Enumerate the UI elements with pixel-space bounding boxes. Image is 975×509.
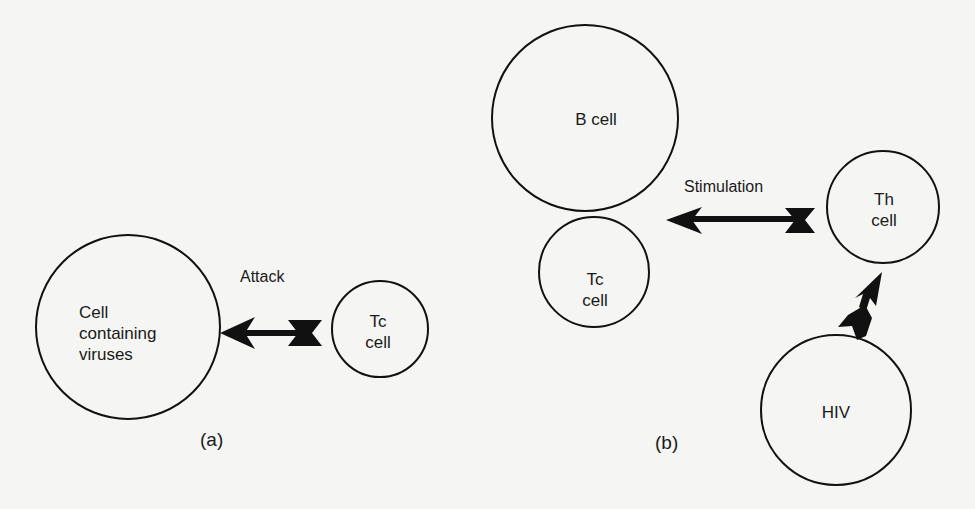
stimulation-label: Stimulation — [684, 178, 763, 195]
panel-b: B cell Tc cell Th cell HIV Stimulation (… — [492, 25, 939, 485]
tc-cell-b-label-line2: cell — [582, 291, 608, 310]
immune-diagram: Cell containing viruses Tc cell Attack (… — [0, 0, 975, 509]
infected-cell-label-line2: containing — [79, 324, 157, 343]
panel-b-caption: (b) — [655, 432, 678, 453]
attack-arrow-icon — [220, 317, 322, 349]
tc-cell-a-label-line2: cell — [365, 333, 391, 352]
tc-cell-b-label-line1: Tc — [587, 270, 605, 289]
hiv-label: HIV — [822, 403, 851, 422]
attack-label: Attack — [240, 268, 285, 285]
stimulation-arrow-icon — [666, 207, 815, 234]
th-cell-label-line2: cell — [871, 211, 897, 230]
tc-cell-a-label-line1: Tc — [370, 312, 388, 331]
panel-a-caption: (a) — [200, 429, 223, 450]
th-cell-label-line1: Th — [874, 190, 894, 209]
infected-cell-label-line3: viruses — [79, 345, 133, 364]
b-cell-label: B cell — [575, 110, 617, 129]
hiv-to-th-arrow-icon — [838, 272, 882, 340]
diagram-canvas: Cell containing viruses Tc cell Attack (… — [0, 0, 975, 509]
infected-cell-label-line1: Cell — [79, 303, 108, 322]
panel-a: Cell containing viruses Tc cell Attack (… — [36, 235, 428, 450]
